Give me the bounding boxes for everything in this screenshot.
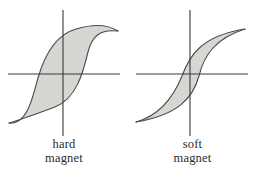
caption-soft-line-2: magnet — [128, 151, 257, 165]
caption-soft-line-1: soft — [128, 137, 257, 151]
hysteresis-figure: hard magnet soft magnet — [0, 0, 257, 177]
panel-soft-magnet: soft magnet — [128, 0, 257, 177]
soft-magnet-plot — [128, 0, 257, 137]
panel-hard-magnet: hard magnet — [0, 0, 128, 177]
caption-soft-magnet: soft magnet — [128, 137, 257, 165]
caption-hard-magnet: hard magnet — [0, 137, 128, 165]
hard-magnet-plot — [0, 0, 128, 137]
caption-hard-line-2: magnet — [0, 151, 128, 165]
caption-hard-line-1: hard — [0, 137, 128, 151]
